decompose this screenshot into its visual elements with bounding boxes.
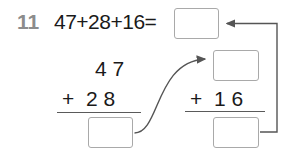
connector-arrows	[0, 0, 292, 156]
worksheet-problem: 11 47+28+16= 4 7 + 2 8 + 1 6	[0, 0, 292, 156]
curved-arrow-left-sum-to-right-top	[135, 59, 206, 133]
elbow-arrow-right-sum-to-total	[227, 24, 277, 133]
